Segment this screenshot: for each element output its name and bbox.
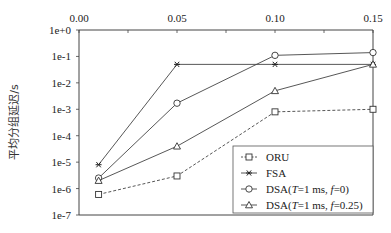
y-axis-label: 平均分组延迟/s [7, 84, 21, 160]
square-marker-icon [370, 106, 376, 112]
legend: ORUFSADSA(T=1 ms, f=0)DSA(T=1 ms, f=0.25… [233, 146, 373, 213]
y-tick-label: 1e-7 [51, 209, 71, 221]
square-marker-icon [96, 191, 102, 197]
asterisk-marker-icon [96, 162, 102, 167]
square-marker-icon [272, 109, 278, 115]
y-tick-label: 1e+0 [49, 24, 72, 36]
y-tick-label: 1e-3 [51, 103, 71, 115]
circle-marker-icon [370, 49, 376, 55]
y-tick-label: 1e-4 [51, 130, 71, 142]
asterisk-marker-icon [272, 62, 278, 67]
x-tick-label: 0.00 [69, 12, 89, 24]
triangle-marker-icon [174, 143, 181, 149]
x-tick-label: 0.05 [167, 12, 187, 24]
chart: 0.000.050.100.151e+01e-11e-21e-31e-41e-5… [0, 0, 391, 233]
circle-marker-icon [174, 100, 180, 106]
y-tick-label: 1e-5 [51, 156, 71, 168]
circle-marker-icon [246, 186, 252, 192]
asterisk-marker-icon [174, 62, 180, 67]
legend-label: ORU [266, 151, 289, 163]
legend-label: DSA(T=1 ms, f=0.25) [266, 199, 363, 212]
square-marker-icon [174, 173, 180, 179]
y-tick-label: 1e-6 [51, 183, 71, 195]
y-tick-label: 1e-1 [51, 50, 71, 62]
square-marker-icon [246, 154, 252, 160]
legend-label: DSA(T=1 ms, f=0) [266, 183, 349, 196]
y-tick-label: 1e-2 [51, 77, 71, 89]
x-tick-label: 0.10 [265, 12, 285, 24]
x-tick-label: 0.15 [363, 12, 383, 24]
circle-marker-icon [272, 52, 278, 58]
legend-label: FSA [266, 167, 286, 179]
